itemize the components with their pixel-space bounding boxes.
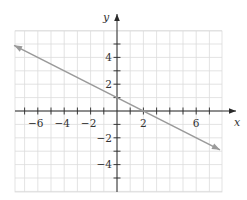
coordinate-plane: −6−4−22642−2−4 x y (0, 0, 247, 200)
x-tick-label: −2 (81, 117, 96, 129)
y-axis-arrow-icon (114, 14, 120, 21)
x-tick-label: 6 (193, 117, 200, 129)
y-tick-label: 2 (105, 78, 112, 90)
x-tick-label: 2 (140, 117, 147, 129)
x-axis-arrow-icon (229, 108, 236, 114)
y-tick-label: 4 (105, 51, 112, 63)
x-tick-label: −4 (54, 117, 70, 129)
line-end-arrow-icon (211, 144, 219, 150)
y-tick-label: −4 (97, 158, 113, 170)
x-tick-label: −6 (28, 117, 44, 129)
y-axis-label: y (102, 11, 110, 24)
x-axis-label: x (234, 116, 241, 129)
y-tick-label: −2 (97, 132, 112, 144)
axes (15, 14, 236, 192)
